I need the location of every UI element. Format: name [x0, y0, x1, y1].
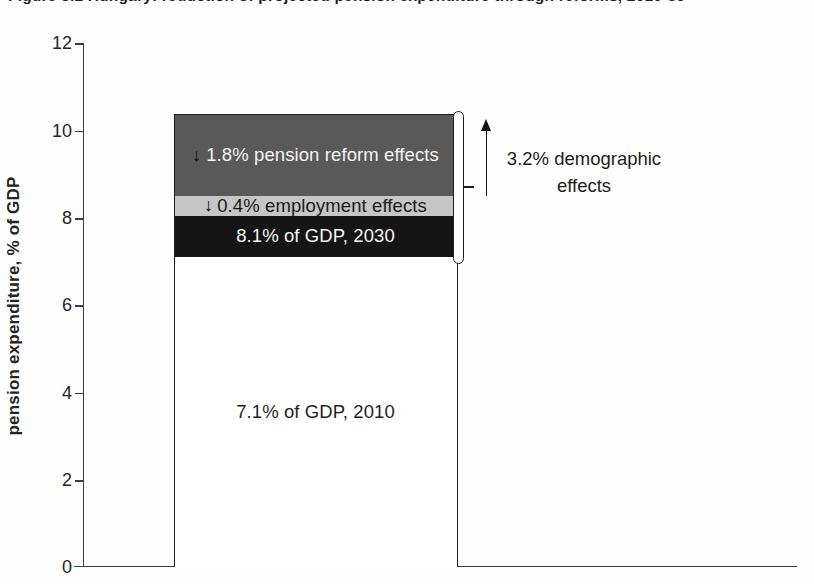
- segment-label: 1.8% pension reform effects: [206, 144, 439, 166]
- demographic-span-bracket: [453, 111, 464, 264]
- y-tick-label: 8: [22, 207, 72, 229]
- y-tick-label: 0: [22, 556, 72, 578]
- y-tick-2: [75, 480, 83, 482]
- y-tick-label: 4: [22, 382, 72, 404]
- segment-label: 8.1% of GDP, 2030: [236, 225, 395, 247]
- chart-figure: Figure 8.2 Hungary: reduction of project…: [0, 0, 814, 584]
- segment-2030-level: 8.1% of GDP, 2030: [175, 216, 457, 257]
- y-axis-line: [83, 43, 85, 567]
- segment-2010-level: 7.1% of GDP, 2010: [175, 257, 457, 568]
- y-tick-label: 2: [22, 469, 72, 491]
- y-tick-4: [75, 393, 83, 395]
- y-tick-label: 12: [22, 32, 72, 54]
- segment-label: 0.4% employment effects: [217, 196, 427, 215]
- y-tick-6: [75, 305, 83, 307]
- bracket-tick: [464, 186, 474, 188]
- stacked-bar: ↓ 1.8% pension reform effects ↓ 0.4% emp…: [174, 114, 458, 568]
- segment-employment-effects: ↓ 0.4% employment effects: [175, 196, 457, 216]
- segment-label: 7.1% of GDP, 2010: [236, 401, 395, 423]
- y-tick-0: [75, 566, 83, 568]
- y-tick-label: 6: [22, 294, 72, 316]
- demographic-effects-annotation: 3.2% demographic effects: [495, 146, 673, 199]
- segment-pension-reform-effects: ↓ 1.8% pension reform effects: [175, 115, 457, 197]
- up-arrow-icon: [481, 119, 491, 131]
- down-arrow-icon: ↓: [204, 196, 213, 215]
- y-tick-12: [75, 43, 83, 45]
- y-tick-label: 10: [22, 120, 72, 142]
- y-tick-8: [75, 218, 83, 220]
- y-tick-10: [75, 131, 83, 133]
- clipped-figure-caption: Figure 8.2 Hungary: reduction of project…: [8, 0, 685, 5]
- down-arrow-icon: ↓: [192, 145, 201, 166]
- up-arrow-icon: [486, 130, 488, 196]
- y-axis-title: pension expenditure, % of GDP: [4, 116, 28, 496]
